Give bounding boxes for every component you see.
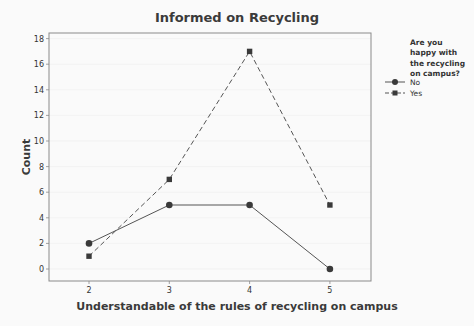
y-tick-label: 6 bbox=[39, 188, 44, 197]
y-tick-label: 14 bbox=[34, 86, 44, 95]
data-point bbox=[327, 266, 334, 273]
y-tick-label: 10 bbox=[34, 137, 44, 146]
x-axis: 2345 bbox=[86, 281, 332, 295]
y-tick-label: 18 bbox=[34, 35, 44, 44]
y-tick-label: 8 bbox=[39, 163, 44, 172]
y-axis: 024681012141618 bbox=[34, 35, 49, 274]
series-group bbox=[86, 49, 334, 273]
legend-title: on campus? bbox=[410, 69, 460, 78]
data-point bbox=[246, 202, 253, 209]
plot-frame bbox=[49, 33, 371, 281]
chart-title: Informed on Recycling bbox=[155, 10, 319, 25]
legend: Are youhappy withthe recyclingon campus?… bbox=[385, 38, 465, 98]
legend-circle-icon bbox=[392, 79, 398, 85]
legend-title: Are you bbox=[410, 38, 443, 47]
y-tick-label: 12 bbox=[34, 111, 44, 120]
data-point bbox=[247, 49, 252, 54]
data-point bbox=[86, 254, 91, 259]
x-tick-label: 5 bbox=[327, 286, 332, 295]
legend-square-icon bbox=[393, 91, 398, 96]
data-point bbox=[167, 177, 172, 182]
line-chart: Informed on Recycling 024681012141618 23… bbox=[0, 0, 474, 326]
y-tick-label: 4 bbox=[39, 214, 44, 223]
data-point bbox=[327, 202, 332, 207]
x-axis-label: Understandable of the rules of recycling… bbox=[76, 300, 398, 313]
legend-label: Yes bbox=[409, 89, 422, 98]
legend-label: No bbox=[410, 78, 421, 87]
x-tick-label: 4 bbox=[247, 286, 252, 295]
series-no bbox=[86, 202, 334, 273]
legend-title: the recycling bbox=[410, 59, 465, 68]
gridlines bbox=[49, 39, 371, 269]
y-tick-label: 16 bbox=[34, 60, 44, 69]
data-point bbox=[86, 240, 93, 247]
legend-title: happy with bbox=[410, 48, 457, 57]
data-point bbox=[166, 202, 173, 209]
y-tick-label: 2 bbox=[39, 239, 44, 248]
x-tick-label: 2 bbox=[86, 286, 91, 295]
x-tick-label: 3 bbox=[167, 286, 172, 295]
y-tick-label: 0 bbox=[39, 265, 44, 274]
y-axis-label: Count bbox=[20, 139, 33, 176]
